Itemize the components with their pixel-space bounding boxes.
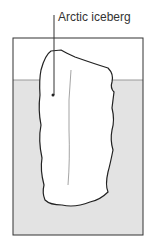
- iceberg-label: Arctic iceberg: [58, 10, 131, 24]
- iceberg-shape: [39, 50, 114, 206]
- label-pointer-dot: [52, 94, 55, 97]
- iceberg-diagram: [0, 0, 149, 245]
